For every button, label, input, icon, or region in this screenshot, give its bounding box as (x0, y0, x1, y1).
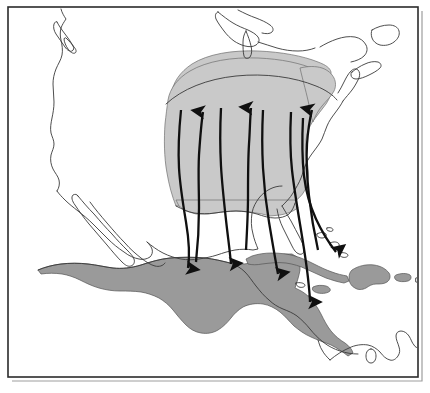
map-canvas (0, 0, 430, 393)
wintering-range-jamaica (312, 285, 330, 293)
wintering-range-puerto-rico (395, 274, 412, 282)
migration-map-figure: Bird migration range and flyway map of N… (0, 0, 430, 393)
